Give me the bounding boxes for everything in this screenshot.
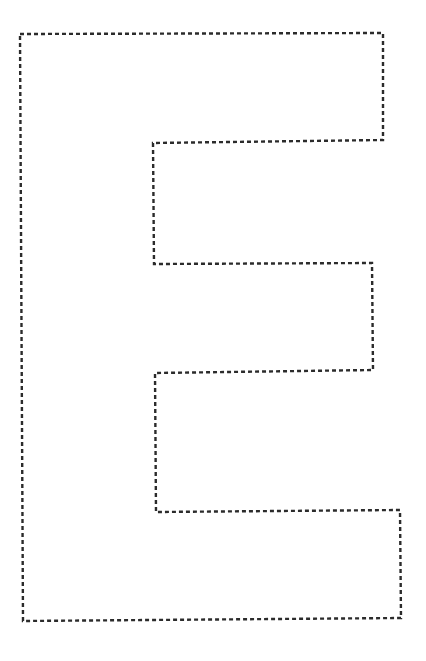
letter-e-outline-graphic — [0, 0, 426, 661]
tracing-worksheet — [0, 0, 426, 661]
letter-e-dotted-outline — [20, 33, 401, 621]
